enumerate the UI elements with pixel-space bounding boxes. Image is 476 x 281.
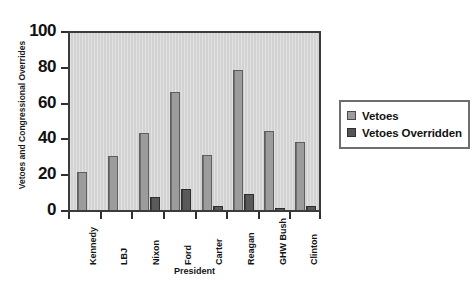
y-axis-title: Vetoes and Congressional Overrides	[17, 20, 27, 210]
y-tick-mark	[61, 138, 68, 140]
chart-legend: Vetoes Vetoes Overridden	[339, 100, 470, 149]
y-tick-label: 20	[38, 164, 56, 184]
bar-group	[132, 33, 163, 210]
x-tick-label: Carter	[214, 238, 224, 265]
y-tick-label: 60	[38, 93, 56, 113]
bar-vetoes	[139, 133, 149, 210]
y-tick-label: 100	[29, 21, 56, 41]
bar-group	[101, 33, 132, 210]
x-tick-label: LBJ	[119, 248, 129, 265]
legend-swatch-icon-vetoes	[347, 111, 356, 120]
bars-container	[70, 33, 319, 210]
y-tick-mark	[61, 210, 68, 212]
legend-item-vetoes: Vetoes	[347, 107, 462, 124]
bar-group	[163, 33, 194, 210]
bar-group	[288, 33, 319, 210]
bar-vetoes	[170, 92, 180, 210]
legend-label-vetoes-overridden: Vetoes Overridden	[362, 127, 462, 139]
bar-group	[195, 33, 226, 210]
bar-group	[257, 33, 288, 210]
x-tick-mark	[226, 212, 228, 219]
bar-vetoes	[108, 156, 118, 210]
x-tick-mark	[258, 212, 260, 219]
x-tick-label: Reagan	[246, 232, 256, 265]
x-axis-tick-labels: KennedyLBJNixonFordCarterReaganGHW BushC…	[68, 221, 321, 269]
x-tick-label: Ford	[183, 245, 193, 265]
y-tick-mark	[61, 67, 68, 69]
x-tick-mark	[195, 212, 197, 219]
y-tick-label: 80	[38, 57, 56, 77]
bar-group	[70, 33, 101, 210]
bar-vetoes	[202, 155, 212, 210]
bar-overridden	[181, 189, 191, 210]
legend-swatch-icon-vetoes-overridden	[347, 128, 356, 137]
y-tick-mark	[61, 103, 68, 105]
bar-vetoes	[295, 142, 305, 210]
x-tick-mark	[289, 212, 291, 219]
bar-overridden	[275, 208, 285, 210]
bar-overridden	[244, 194, 254, 210]
bar-overridden	[306, 206, 316, 210]
x-tick-label: Kennedy	[88, 227, 98, 265]
x-tick-mark	[319, 212, 321, 219]
x-tick-label: Clinton	[309, 234, 319, 265]
plot-area	[68, 31, 321, 212]
x-tick-label: Nixon	[151, 240, 161, 265]
y-tick-mark	[61, 174, 68, 176]
y-tick-mark	[61, 31, 68, 33]
x-tick-label: GHW Bush	[278, 218, 288, 265]
legend-label-vetoes: Vetoes	[362, 110, 398, 122]
x-axis-title: President	[68, 266, 321, 276]
y-tick-label: 0	[47, 200, 56, 220]
x-tick-mark	[163, 212, 165, 219]
bar-overridden	[150, 197, 160, 210]
y-tick-label: 40	[38, 128, 56, 148]
legend-item-vetoes-overridden: Vetoes Overridden	[347, 124, 462, 141]
bar-vetoes	[233, 70, 243, 210]
x-tick-mark	[100, 212, 102, 219]
bar-chart-figure: Vetoes and Congressional Overrides 02040…	[0, 0, 476, 281]
x-tick-mark	[131, 212, 133, 219]
bar-vetoes	[264, 131, 274, 210]
bar-vetoes	[77, 172, 87, 210]
x-tick-mark	[68, 212, 70, 219]
bar-group	[226, 33, 257, 210]
bar-overridden	[213, 206, 223, 210]
